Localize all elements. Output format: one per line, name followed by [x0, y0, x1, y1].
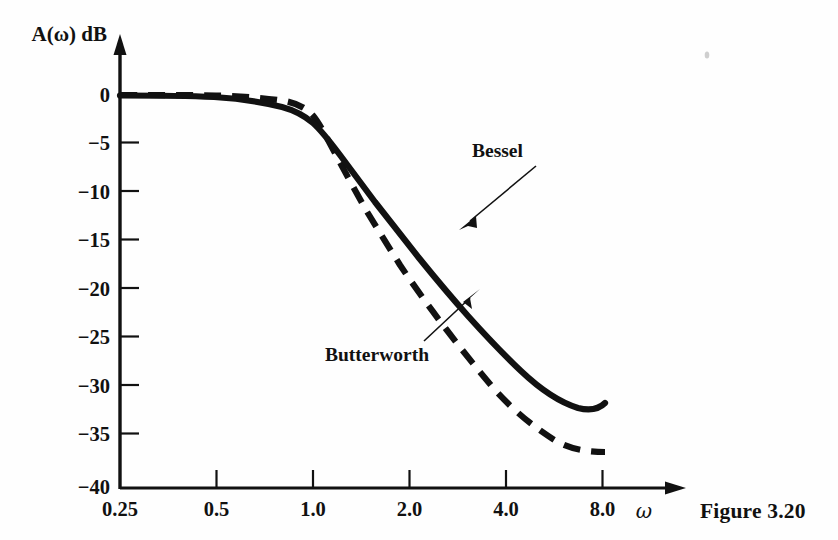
- bessel-annotation: Bessel: [459, 140, 536, 230]
- figure-root: 0 −5 −10 −15 −20 −25 −30 −35 −40 0.25 0.…: [0, 0, 838, 540]
- butterworth-arrowhead: [463, 289, 480, 309]
- butterworth-label: Butterworth: [325, 344, 429, 365]
- y-tick-labels: 0 −5 −10 −15 −20 −25 −30 −35 −40: [78, 84, 110, 498]
- y-axis: [114, 34, 127, 489]
- x-tick-label-1: 0.5: [204, 498, 230, 520]
- x-tick-label-2: 1.0: [300, 498, 326, 520]
- x-axis: [120, 482, 686, 495]
- y-tick-label-5: −25: [78, 326, 110, 348]
- y-tick-label-6: −30: [78, 375, 110, 397]
- scan-speck: [705, 51, 710, 58]
- x-tick-marks: [217, 470, 603, 488]
- y-tick-label-0: 0: [100, 84, 110, 106]
- x-tick-label-5: 8.0: [590, 498, 616, 520]
- y-tick-label-4: −20: [78, 278, 110, 300]
- x-tick-label-0: 0.25: [102, 498, 138, 520]
- x-tick-label-3: 2.0: [397, 498, 423, 520]
- figure-caption: Figure 3.20: [700, 499, 806, 523]
- y-axis-arrowhead: [114, 34, 127, 55]
- x-axis-arrowhead: [665, 482, 686, 495]
- y-axis-title: A(ω) dB: [32, 22, 107, 46]
- y-tick-label-3: −15: [78, 229, 110, 251]
- x-tick-label-4: 4.0: [493, 498, 519, 520]
- x-axis-title: ω: [636, 499, 652, 523]
- y-tick-label-1: −5: [88, 132, 110, 154]
- bode-magnitude-chart: 0 −5 −10 −15 −20 −25 −30 −35 −40 0.25 0.…: [0, 0, 838, 540]
- bessel-label: Bessel: [472, 140, 523, 161]
- y-tick-marks: [120, 143, 139, 434]
- curve-butterworth: [120, 95, 605, 452]
- y-tick-label-7: −35: [78, 423, 110, 445]
- y-tick-label-2: −10: [78, 181, 110, 203]
- x-tick-labels: 0.25 0.5 1.0 2.0 4.0 8.0: [102, 498, 615, 520]
- bessel-arrowhead: [459, 216, 477, 230]
- y-tick-label-8: −40: [78, 476, 110, 498]
